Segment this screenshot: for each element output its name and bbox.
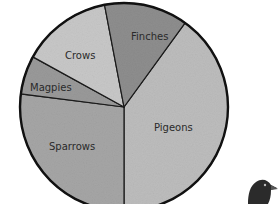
- slice-label-pigeons: Pigeons: [154, 122, 193, 133]
- slice-label-sparrows: Sparrows: [49, 141, 95, 152]
- slice-label-crows: Crows: [65, 50, 95, 61]
- pigeon-illustration-icon: [248, 180, 278, 204]
- pie-chart: Finches Crows Magpies Sparrows Pigeons: [0, 0, 280, 204]
- slice-label-finches: Finches: [131, 31, 168, 42]
- slice-label-magpies: Magpies: [30, 82, 72, 93]
